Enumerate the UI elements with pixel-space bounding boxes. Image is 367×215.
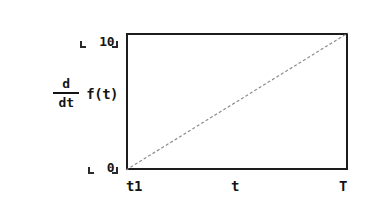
- y-axis-tick-min: 0: [92, 160, 114, 175]
- x-axis-tick-end: T: [339, 178, 347, 194]
- x-axis-tick-start: t1: [126, 178, 142, 194]
- derivative-plot-figure: d dt f(t) 10 0 t1 t T: [0, 0, 367, 215]
- derivative-operator-fraction: d dt: [53, 77, 79, 109]
- y-axis-function-label: f(t): [86, 86, 118, 102]
- fraction-denominator: dt: [58, 94, 74, 109]
- y-axis-label: d dt f(t): [22, 60, 118, 126]
- y-axis-tick-max-value: 10: [99, 34, 114, 49]
- x-axis-tick-mid: t: [231, 178, 239, 194]
- fraction-numerator: d: [62, 77, 70, 92]
- y-axis-tick-min-value: 0: [107, 160, 114, 175]
- plot-frame-border: [126, 33, 348, 170]
- y-axis-tick-max: 10: [84, 34, 114, 49]
